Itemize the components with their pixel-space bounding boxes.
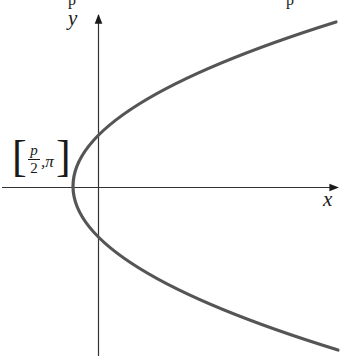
bracket-close: ]: [56, 137, 71, 177]
bracket-open: [: [12, 137, 27, 177]
point-label: [ p 2 ,π ]: [12, 140, 68, 182]
parabola-curve: [73, 22, 338, 350]
x-axis-label: x: [323, 189, 332, 210]
y-axis-label: y: [68, 8, 77, 29]
diagram-canvas: p p y x [ p 2 ,π ]: [0, 0, 354, 356]
fraction: p 2: [28, 143, 40, 176]
pi-symbol: π: [45, 152, 54, 171]
fraction-numerator: p: [28, 143, 40, 158]
fraction-denominator: 2: [28, 161, 40, 176]
point-second-coordinate: ,π: [41, 152, 54, 172]
